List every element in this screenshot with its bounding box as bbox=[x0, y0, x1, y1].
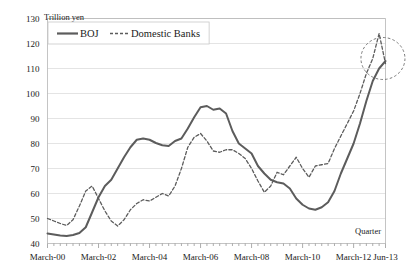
y-tick-label: 70 bbox=[31, 164, 41, 174]
x-tick-label: March-08 bbox=[234, 252, 270, 262]
y-tick-label: 100 bbox=[26, 89, 40, 99]
y-tick-label: 90 bbox=[31, 114, 41, 124]
x-axis-label: Quarter bbox=[355, 226, 381, 236]
x-tick-label: March-06 bbox=[183, 252, 219, 262]
x-tick-label: Jun-13 bbox=[373, 252, 398, 262]
y-tick-label: 60 bbox=[31, 189, 41, 199]
y-tick-label: 120 bbox=[26, 39, 40, 49]
y-axis-unit-label: Trillion yen bbox=[44, 12, 85, 22]
x-tick-label: March-10 bbox=[285, 252, 321, 262]
legend-label-boj: BOJ bbox=[80, 28, 99, 39]
x-axis-tickmarks bbox=[48, 244, 386, 249]
y-axis-tick-labels: 405060708090100110120130 bbox=[26, 14, 40, 249]
plot-frame bbox=[48, 19, 386, 244]
x-tick-label: March-00 bbox=[30, 252, 66, 262]
series-line-domestic-banks bbox=[48, 34, 386, 227]
x-axis-tick-labels: March-00March-02March-04March-06March-08… bbox=[30, 252, 398, 262]
x-tick-label: March-04 bbox=[132, 252, 168, 262]
y-tick-label: 40 bbox=[31, 239, 41, 249]
chart-page: 405060708090100110120130 March-00March-0… bbox=[0, 0, 413, 269]
series-line-boj bbox=[48, 61, 386, 236]
chart-legend: BOJ Domestic Banks bbox=[48, 22, 209, 44]
y-tick-label: 50 bbox=[31, 214, 41, 224]
y-tick-label: 80 bbox=[31, 139, 41, 149]
y-tick-label: 110 bbox=[26, 64, 40, 74]
x-tick-label: March-12 bbox=[336, 252, 372, 262]
legend-label-domestic-banks: Domestic Banks bbox=[131, 28, 200, 39]
data-series bbox=[48, 34, 386, 237]
y-tick-label: 130 bbox=[26, 14, 40, 24]
x-tick-label: March-02 bbox=[81, 252, 117, 262]
line-chart: 405060708090100110120130 March-00March-0… bbox=[0, 0, 413, 269]
